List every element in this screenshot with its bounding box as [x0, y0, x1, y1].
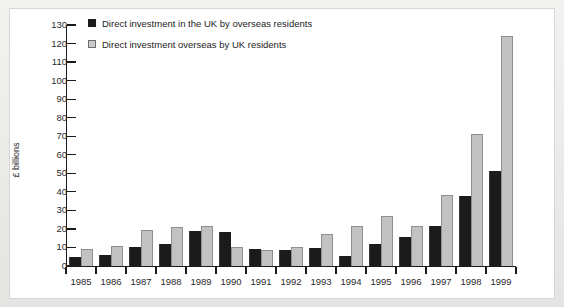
bar-1997-series1	[429, 226, 440, 266]
x-tick-label: 1986	[96, 276, 126, 287]
legend-item: Direct investment in the UK by overseas …	[88, 16, 312, 30]
y-tick-label-text: 90	[37, 94, 67, 104]
bar-1997-series2	[441, 195, 452, 266]
bar-1988-series2	[171, 227, 182, 266]
y-tick-label: 80	[30, 113, 67, 123]
y-tick-label-text: 70	[37, 131, 67, 141]
bar-1987-series1	[129, 247, 140, 266]
bar-1996-series2	[411, 226, 422, 266]
x-tick-label: 1994	[336, 276, 366, 287]
y-tick-label-text: 10	[37, 242, 67, 252]
y-tick-label: 100	[30, 76, 67, 86]
bar-1985-series2	[81, 249, 92, 266]
bar-1993-series2	[321, 234, 332, 266]
x-tick-mark	[125, 267, 126, 274]
x-tick-label: 1988	[156, 276, 186, 287]
bar-1994-series1	[339, 256, 350, 266]
y-tick-label: 110	[30, 57, 67, 67]
x-tick-label: 1992	[276, 276, 306, 287]
bar-1995-series2	[381, 216, 392, 266]
y-tick-label: 0	[30, 261, 67, 271]
x-axis-line	[66, 266, 516, 267]
y-tick-label-text: 120	[37, 39, 67, 49]
x-tick-mark	[335, 267, 336, 274]
y-tick-label: 130	[30, 20, 67, 30]
bar-1990-series1	[219, 232, 230, 266]
bar-1998-series1	[459, 196, 470, 266]
y-tick-label: 50	[30, 168, 67, 178]
chart-legend: Direct investment in the UK by overseas …	[88, 16, 312, 58]
y-tick-label: 90	[30, 94, 67, 104]
x-tick-label: 1998	[456, 276, 486, 287]
y-tick-mark	[67, 117, 76, 118]
y-tick-mark	[67, 80, 76, 81]
y-tick-label-text: 130	[37, 20, 67, 30]
x-tick-label: 1995	[366, 276, 396, 287]
x-tick-mark	[65, 267, 66, 274]
y-tick-mark	[67, 154, 76, 155]
y-tick-label-text: 30	[37, 205, 67, 215]
legend-swatch-icon	[88, 19, 96, 27]
x-tick-mark	[515, 267, 516, 274]
y-tick-mark	[67, 136, 76, 137]
bar-1995-series1	[369, 244, 380, 266]
y-tick-label: 20	[30, 224, 67, 234]
y-tick-label: 70	[30, 131, 67, 141]
x-tick-label: 1993	[306, 276, 336, 287]
y-tick-mark	[67, 24, 76, 25]
y-tick-label-text: 80	[37, 113, 67, 123]
bar-1996-series1	[399, 237, 410, 266]
bar-1987-series2	[141, 230, 152, 266]
x-tick-label: 1996	[396, 276, 426, 287]
bar-1998-series2	[471, 134, 482, 266]
x-tick-mark	[305, 267, 306, 274]
x-tick-mark	[155, 267, 156, 274]
legend-swatch-icon	[88, 40, 96, 48]
bar-1990-series2	[231, 247, 242, 266]
y-tick-mark	[67, 61, 76, 62]
legend-item: Direct investment overseas by UK residen…	[88, 37, 312, 51]
y-tick-label-text: 60	[37, 150, 67, 160]
bar-1986-series1	[99, 255, 110, 266]
y-tick-label: 60	[30, 150, 67, 160]
y-tick-label-text: 50	[37, 168, 67, 178]
y-tick-label: 10	[30, 242, 67, 252]
x-tick-mark	[185, 267, 186, 274]
y-tick-mark	[67, 228, 76, 229]
y-tick-label-text: 100	[37, 76, 67, 86]
y-axis-title: £ billions	[11, 120, 21, 200]
plot-area: 0102030405060708090100110120130 £ billio…	[0, 0, 564, 307]
x-tick-label: 1989	[186, 276, 216, 287]
y-tick-label-text: 0	[37, 261, 67, 271]
y-tick-mark	[67, 247, 76, 248]
x-tick-mark	[275, 267, 276, 274]
y-tick-mark	[67, 210, 76, 211]
y-tick-mark	[67, 191, 76, 192]
bar-1985-series1	[69, 257, 80, 266]
x-tick-label: 1987	[126, 276, 156, 287]
x-tick-label: 1991	[246, 276, 276, 287]
bar-1991-series1	[249, 249, 260, 266]
bar-1991-series2	[261, 250, 272, 266]
y-tick-label-text: 110	[37, 57, 67, 67]
bar-1993-series1	[309, 248, 320, 266]
bar-1986-series2	[111, 246, 122, 266]
bar-1988-series1	[159, 244, 170, 266]
y-tick-label-text: 40	[37, 187, 67, 197]
x-tick-mark	[425, 267, 426, 274]
bar-1999-series2	[501, 36, 512, 266]
y-tick-label-text: 20	[37, 224, 67, 234]
y-tick-mark	[67, 99, 76, 100]
x-tick-mark	[365, 267, 366, 274]
bar-1992-series2	[291, 247, 302, 266]
x-tick-mark	[455, 267, 456, 274]
bar-1992-series1	[279, 250, 290, 266]
y-tick-mark	[67, 173, 76, 174]
bar-1989-series1	[189, 231, 200, 266]
legend-label: Direct investment overseas by UK residen…	[102, 39, 286, 50]
y-tick-label: 30	[30, 205, 67, 215]
x-tick-label: 1985	[66, 276, 96, 287]
bar-1999-series1	[489, 171, 500, 266]
x-tick-label: 1990	[216, 276, 246, 287]
y-tick-mark	[67, 43, 76, 44]
